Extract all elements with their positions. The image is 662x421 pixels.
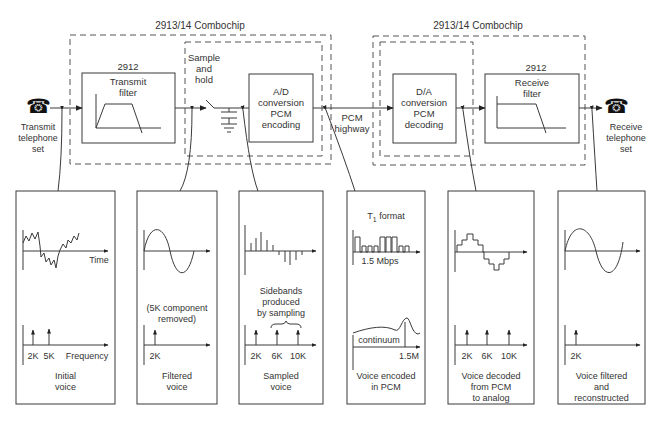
sample-hold-title: Sample and hold [186,52,222,85]
label-line: Transmit [8,122,68,133]
label-line: encoding [251,119,311,130]
t1-format-title: T1 format [347,211,425,225]
freq-tick-10k: 10K [288,351,308,362]
label-line: A/D [251,86,311,97]
label-line: hold [186,74,222,85]
caption-line: to analog [448,393,534,404]
label-line: highway [332,123,372,134]
caption-line: voice [137,382,217,393]
frequency-axis-label: Frequency [64,351,110,362]
right-chip-title: 2913/14 Combochip [418,20,538,31]
note-line: removed) [137,314,217,325]
caption-line: voice [239,382,323,393]
receive-telephone-label: Receive telephone set [596,122,656,155]
freq-tick-6k: 6K [479,351,495,362]
freq-tick-2k: 2K [459,351,475,362]
label-line: PCM [394,108,454,119]
label-line: telephone [596,133,656,144]
caption-line: reconstructed [558,393,645,404]
note-sidebands: Sidebands produced by sampling [239,286,323,319]
label-line: filter [502,88,562,99]
caption-filtered-voice: Filtered voice [137,371,217,393]
receive-filter-part: 2912 [516,62,556,73]
label-line: filter [98,87,158,98]
transmit-filter-title: Transmit filter [98,76,158,98]
freq-tick-2k: 2K [568,351,584,362]
note-5k-removed: (5K component removed) [137,303,217,325]
caption-line: in PCM [347,382,425,393]
note-line: (5K component [137,303,217,314]
label-line: Sample [186,52,222,63]
pcm-highway-label: PCM highway [332,112,372,134]
label-line: conversion [394,97,454,108]
freq-tick-2k: 2K [248,351,264,362]
continuum-label: continuum [355,335,403,346]
rate-label: 1.5 Mbps [355,256,405,267]
freq-tick-2k: 2K [25,351,41,362]
t1-rest: format [377,211,405,221]
caption-line: and [558,382,645,393]
caption-line: Sampled [239,371,323,382]
caption-line: Filtered [137,371,217,382]
label-line: D/A [394,86,454,97]
freq-tick-10k: 10K [499,351,519,362]
left-chip-title: 2913/14 Combochip [140,20,260,31]
caption-voice-reconstructed: Voice filtered and reconstructed [558,371,645,404]
caption-line: Initial [16,371,115,382]
label-line: decoding [394,119,454,130]
freq-tick-6k: 6K [269,351,285,362]
label-line: and [186,63,222,74]
receive-filter-title: Receive filter [502,77,562,99]
time-axis-label: Time [86,255,112,266]
label-line: PCM [332,112,372,123]
transmit-filter-part: 2912 [108,61,148,72]
label-line: Receive [502,77,562,88]
freq-tick-5k: 5K [41,351,57,362]
label-line: telephone [8,133,68,144]
label-line: Transmit [98,76,158,87]
label-line: set [8,144,68,155]
ad-title: A/D conversion PCM encoding [251,86,311,130]
note-line: Sidebands [239,286,323,297]
caption-initial-voice: Initial voice [16,371,115,393]
caption-line: Voice decoded [448,371,534,382]
caption-sampled-voice: Sampled voice [239,371,323,393]
label-line: PCM [251,108,311,119]
freq-tick-1-5m: 1.5M [397,351,421,362]
note-line: produced [239,297,323,308]
label-line: Receive [596,122,656,133]
caption-line: Voice encoded [347,371,425,382]
receive-telephone-icon: ☎ [604,96,629,116]
freq-tick-2k: 2K [147,351,163,362]
caption-line: from PCM [448,382,534,393]
caption-line: voice [16,382,115,393]
caption-line: Voice filtered [558,371,645,382]
da-title: D/A conversion PCM decoding [394,86,454,130]
transmit-telephone-label: Transmit telephone set [8,122,68,155]
note-line: by sampling [239,308,323,319]
caption-voice-encoded: Voice encoded in PCM [347,371,425,393]
transmit-telephone-icon: ☎ [26,96,51,116]
label-line: set [596,144,656,155]
label-line: conversion [251,97,311,108]
caption-voice-decoded: Voice decoded from PCM to analog [448,371,534,404]
